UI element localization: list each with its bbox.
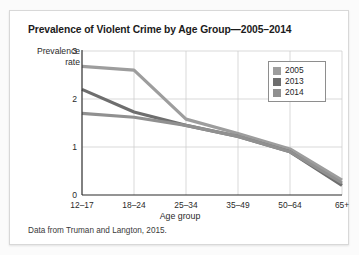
y-tick-label: 0 [63,190,77,200]
figure-card: Prevalence of Violent Crime by Age Group… [9,10,349,245]
legend-label: 2014 [285,88,304,97]
figure-root: Prevalence of Violent Crime by Age Group… [0,0,359,255]
y-tick-label: 1 [63,142,77,152]
legend-label: 2013 [285,77,304,86]
series-line-2013 [82,89,342,185]
legend-label: 2005 [285,66,304,75]
x-tick-label: 18–24 [111,200,157,210]
legend-item-2014: 2014 [273,87,320,98]
legend-item-2013: 2013 [273,76,320,87]
series-line-2014 [82,113,342,183]
x-tick-label: 65+ [319,200,359,210]
legend-item-2005: 2005 [273,65,320,76]
x-tick-label: 25–34 [163,200,209,210]
legend-swatch-icon [273,67,281,75]
x-tick-label: 12–17 [59,200,105,210]
legend-swatch-icon [273,78,281,86]
x-tick-label: 50–64 [267,200,313,210]
legend: 200520132014 [268,61,326,102]
source-note: Data from Truman and Langton, 2015. [28,226,167,235]
x-axis-label: Age group [10,211,350,221]
x-tick-label: 35–49 [215,200,261,210]
legend-swatch-icon [273,89,281,97]
y-tick-label: 2 [63,94,77,104]
y-tick-label: 3 [63,46,77,56]
